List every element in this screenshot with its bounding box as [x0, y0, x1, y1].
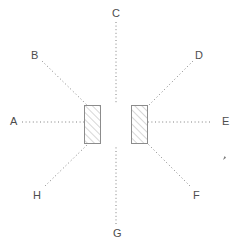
left-barrier: [85, 106, 101, 144]
ray-label-a: A: [10, 116, 17, 127]
ray-label-e: E: [222, 116, 229, 127]
barriers-group: [85, 106, 148, 144]
right-barrier: [132, 106, 148, 144]
ray-label-d: D: [195, 50, 203, 61]
ray-line-h: [45, 144, 88, 186]
ray-label-f: F: [193, 190, 200, 201]
ray-label-g: G: [113, 228, 122, 239]
ray-label-b: B: [31, 50, 38, 61]
ray-line-d: [148, 61, 193, 106]
ray-lines-group: [22, 22, 210, 224]
ray-line-b: [42, 61, 88, 106]
stray-mark-icon: [223, 156, 226, 160]
ray-label-h: H: [33, 190, 41, 201]
figure-canvas: ABCDEFGH: [0, 0, 240, 252]
stray-mark-shape: [223, 156, 226, 160]
ray-label-c: C: [112, 8, 120, 19]
ray-line-f: [148, 144, 190, 186]
ray-diagram-svg: [0, 0, 240, 252]
